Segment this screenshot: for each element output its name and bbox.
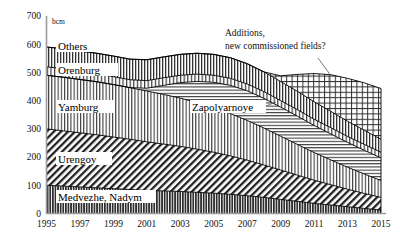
stacked-area-chart: 0100200300400500600700 19951997199920012… <box>0 0 400 243</box>
series-label-orenburg-text: Orenburg <box>58 64 100 76</box>
x-tick-1999: 1999 <box>104 219 123 229</box>
x-tick-2013: 2013 <box>338 219 357 229</box>
series-label-medvezhe-nadym-text: Medvezhe, Nadym <box>58 191 142 203</box>
series-label-yamburg-text: Yamburg <box>58 101 99 113</box>
series-label-others: Others <box>56 39 100 52</box>
series-label-zapolyarnoye-text: Zapolyarnoye <box>192 101 253 113</box>
y-tick-200: 200 <box>27 152 42 162</box>
x-tick-2001: 2001 <box>137 219 156 229</box>
y-tick-0: 0 <box>36 209 41 219</box>
y-tick-400: 400 <box>27 96 42 106</box>
y-axis-tick-labels: 0100200300400500600700 <box>27 11 42 219</box>
y-tick-300: 300 <box>27 124 42 134</box>
y-tick-100: 100 <box>27 181 42 191</box>
series-label-others-text: Others <box>58 40 87 52</box>
x-tick-2007: 2007 <box>238 219 257 229</box>
x-tick-1997: 1997 <box>70 219 89 229</box>
y-tick-500: 500 <box>27 68 42 78</box>
series-label-yamburg: Yamburg <box>56 100 114 113</box>
series-label-medvezhe-nadym: Medvezhe, Nadym <box>56 190 156 203</box>
chart-canvas: 0100200300400500600700 19951997199920012… <box>0 0 400 243</box>
x-tick-2009: 2009 <box>271 219 290 229</box>
series-label-zapolyarnoye: Zapolyarnoye <box>190 100 276 113</box>
x-tick-2003: 2003 <box>171 219 190 229</box>
x-tick-1995: 1995 <box>37 219 56 229</box>
additions-annotation-line1: Additions, <box>225 28 265 38</box>
y-tick-700: 700 <box>27 11 42 21</box>
x-tick-2011: 2011 <box>305 219 324 229</box>
y-axis-unit-label: bcm <box>52 17 65 26</box>
x-tick-2015: 2015 <box>372 219 391 229</box>
x-axis-tick-labels: 1995199719992001200320052007200920112013… <box>37 219 391 229</box>
series-label-urengoy-text: Urengoy <box>58 153 97 165</box>
x-tick-2005: 2005 <box>204 219 223 229</box>
series-label-urengoy: Urengoy <box>56 152 112 165</box>
additions-annotation-line2: new commissioned fields? <box>225 41 326 51</box>
y-tick-600: 600 <box>27 40 42 50</box>
series-label-orenburg: Orenburg <box>56 63 118 76</box>
